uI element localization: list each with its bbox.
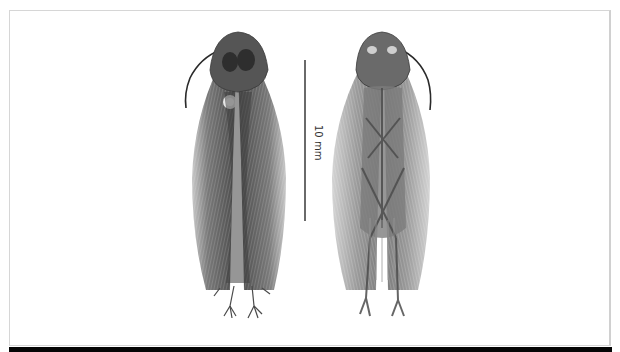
- bottom-black-strip: [9, 347, 612, 352]
- figure-frame: [9, 10, 611, 346]
- scale-bar: [304, 60, 306, 221]
- scale-bar-label: 10 mm: [311, 125, 325, 155]
- specimen-ventral-view: [326, 28, 441, 320]
- specimen-dorsal-view: [180, 28, 295, 320]
